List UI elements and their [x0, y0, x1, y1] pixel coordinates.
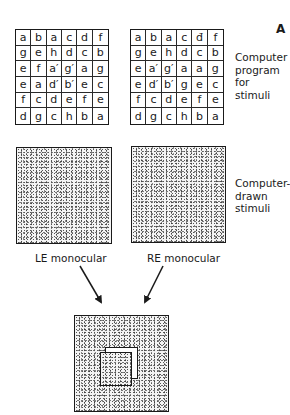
fused-front-square [100, 352, 132, 386]
left-arrow-icon [80, 266, 101, 302]
right-arrow-icon [145, 266, 163, 302]
